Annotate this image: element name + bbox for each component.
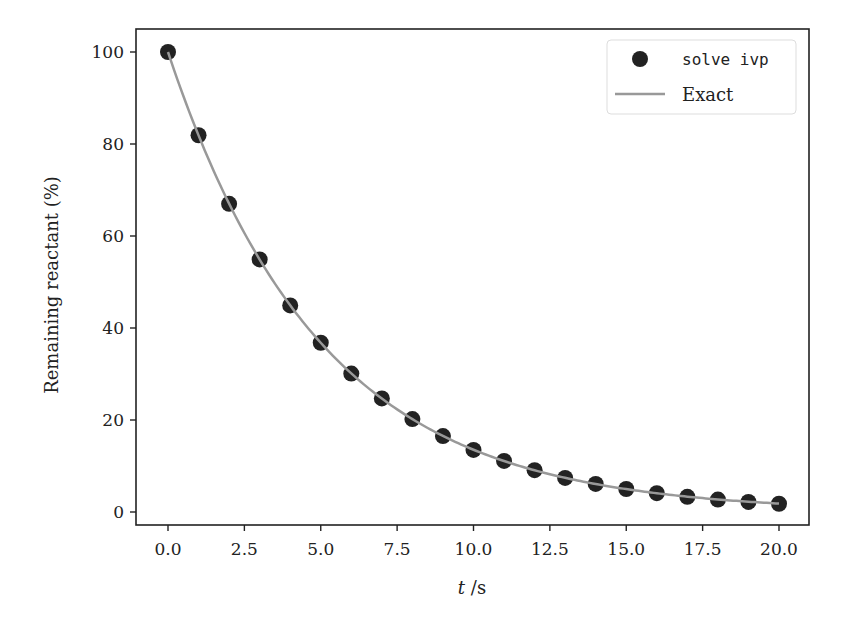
x-tick-label: 20.0 xyxy=(760,539,798,559)
decay-chart: 0.02.55.07.510.012.515.017.520.0 0204060… xyxy=(0,0,848,630)
x-axis: 0.02.55.07.510.012.515.017.520.0 xyxy=(154,525,797,559)
x-tick-label: 2.5 xyxy=(231,539,258,559)
x-tick-label: 17.5 xyxy=(684,539,722,559)
y-axis: 020406080100 xyxy=(92,42,136,522)
y-tick-label: 0 xyxy=(113,502,124,522)
x-axis-label: t /s xyxy=(458,577,486,598)
x-tick-label: 12.5 xyxy=(531,539,569,559)
y-tick-label: 100 xyxy=(92,42,124,62)
x-tick-label: 10.0 xyxy=(455,539,493,559)
legend: solve ivp Exact xyxy=(607,40,796,114)
legend-label-exact: Exact xyxy=(682,84,734,105)
y-tick-label: 60 xyxy=(102,226,124,246)
exact-curve xyxy=(168,52,779,504)
y-axis-label: Remaining reactant (%) xyxy=(41,176,62,394)
x-tick-label: 15.0 xyxy=(607,539,645,559)
y-tick-label: 80 xyxy=(102,134,124,154)
y-tick-label: 20 xyxy=(102,410,124,430)
legend-marker-icon xyxy=(632,51,648,67)
legend-label-solve-ivp: solve ivp xyxy=(682,50,769,69)
x-tick-label: 0.0 xyxy=(154,539,181,559)
x-tick-label: 7.5 xyxy=(384,539,411,559)
y-tick-label: 40 xyxy=(102,318,124,338)
x-tick-label: 5.0 xyxy=(307,539,334,559)
